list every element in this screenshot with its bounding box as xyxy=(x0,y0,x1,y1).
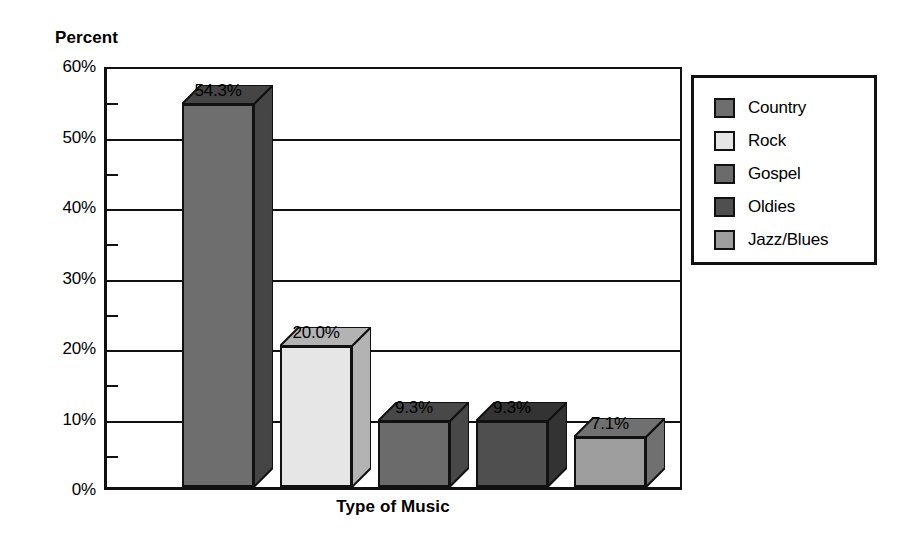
bar-value-label: 7.1% xyxy=(591,414,629,434)
legend-item[interactable]: Oldies xyxy=(714,190,868,223)
y-axis-tick-labels: 0%10%20%30%40%50%60% xyxy=(34,67,96,490)
legend-swatch-icon xyxy=(714,230,735,250)
y-axis-minor-tick xyxy=(107,174,118,176)
legend-item-list: CountryRockGospelOldiesJazz/Blues xyxy=(714,91,868,256)
bar-country xyxy=(182,85,273,487)
legend-item-label: Country xyxy=(748,98,806,118)
legend-item[interactable]: Country xyxy=(714,91,868,124)
y-axis-tick-label: 30% xyxy=(63,269,96,289)
legend-swatch-icon xyxy=(714,98,735,118)
y-axis-title: Percent xyxy=(55,28,118,48)
bar-value-label: 9.3% xyxy=(493,398,531,418)
legend-swatch-icon xyxy=(714,164,735,184)
y-axis-tick-label: 50% xyxy=(63,128,96,148)
legend-item[interactable]: Gospel xyxy=(714,157,868,190)
bar-front-face xyxy=(378,421,450,487)
bar-front-face xyxy=(280,346,352,487)
y-axis-tick-label: 60% xyxy=(63,57,96,77)
y-axis-minor-tick xyxy=(107,456,118,458)
bar-value-label: 54.3% xyxy=(194,81,241,101)
legend-item-label: Rock xyxy=(748,131,786,151)
y-axis-minor-tick xyxy=(107,385,118,387)
y-axis-tick-label: 0% xyxy=(72,480,96,500)
x-axis-title: Type of Music xyxy=(104,497,682,517)
bar-chart-figure: Percent 0%10%20%30%40%50%60% 54.3%20.0%9… xyxy=(0,0,921,550)
legend-swatch-icon xyxy=(714,131,735,151)
y-axis-tick-label: 20% xyxy=(63,339,96,359)
chart-legend: CountryRockGospelOldiesJazz/Blues xyxy=(691,75,877,265)
bar-front-face xyxy=(476,421,548,487)
legend-item[interactable]: Jazz/Blues xyxy=(714,223,868,256)
legend-swatch-icon xyxy=(714,197,735,217)
legend-item-label: Gospel xyxy=(748,164,801,184)
bar-value-label: 20.0% xyxy=(292,323,339,343)
legend-item-label: Jazz/Blues xyxy=(748,230,828,250)
plot-inner: 54.3%20.0%9.3%9.3%7.1% xyxy=(107,69,680,487)
bar-rock xyxy=(280,327,371,487)
y-axis-tick-label: 40% xyxy=(63,198,96,218)
y-axis-tick-label: 10% xyxy=(63,410,96,430)
legend-item[interactable]: Rock xyxy=(714,124,868,157)
bar-front-face xyxy=(182,104,254,487)
bar-front-face xyxy=(574,437,646,487)
y-axis-minor-tick xyxy=(107,103,118,105)
y-axis-minor-tick xyxy=(107,244,118,246)
legend-item-label: Oldies xyxy=(748,197,795,217)
y-axis-minor-tick xyxy=(107,315,118,317)
bar-value-label: 9.3% xyxy=(395,398,433,418)
plot-area: 54.3%20.0%9.3%9.3%7.1% xyxy=(104,67,682,490)
